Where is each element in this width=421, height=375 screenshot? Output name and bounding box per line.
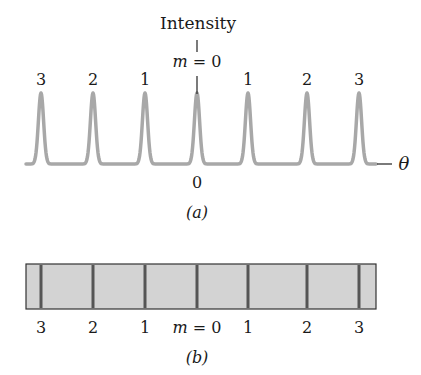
origin-label: 0	[192, 175, 202, 191]
order-label-left-3: 3	[36, 72, 46, 88]
fringe-pattern	[26, 264, 376, 309]
fringe-label-left-2: 2	[88, 320, 98, 336]
fringe-order-variable: m	[173, 318, 188, 337]
caption-a: (a)	[186, 205, 208, 221]
center-order-label: m = 0	[173, 54, 222, 70]
order-equals: = 0	[188, 52, 222, 71]
order-label-right-2: 2	[302, 72, 312, 88]
fringe-screen	[26, 264, 376, 309]
fringe-label-right-2: 2	[302, 320, 312, 336]
fringe-label-right-1: 1	[243, 320, 253, 336]
fringe-label-left-3: 3	[36, 320, 46, 336]
order-label-right-3: 3	[354, 72, 364, 88]
order-label-left-1: 1	[140, 72, 150, 88]
fringe-label-right-3: 3	[354, 320, 364, 336]
intensity-curve-path	[26, 93, 376, 164]
intensity-curve	[26, 93, 376, 164]
fringe-label-left-1: 1	[140, 320, 150, 336]
caption-b: (b)	[186, 350, 209, 366]
order-variable: m	[173, 52, 188, 71]
theta-label: θ	[399, 155, 410, 173]
intensity-label: Intensity	[160, 15, 236, 32]
fringe-order-equals: = 0	[188, 318, 222, 337]
fringe-label-center: m = 0	[173, 320, 222, 336]
order-label-left-2: 2	[88, 72, 98, 88]
order-label-right-1: 1	[243, 72, 253, 88]
